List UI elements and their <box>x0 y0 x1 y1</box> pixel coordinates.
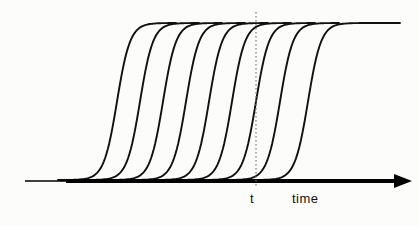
sigmoid-curve <box>81 23 199 180</box>
reference-time-label: t <box>250 192 254 205</box>
time-axis-arrowhead <box>394 174 412 188</box>
sigmoid-curves-group <box>58 23 400 180</box>
figure-canvas <box>0 0 419 226</box>
sigmoid-curve <box>127 23 245 180</box>
sigmoid-curve <box>173 23 291 180</box>
sigmoid-figure: t time <box>0 0 419 226</box>
time-axis-label: time <box>292 192 319 205</box>
sigmoid-curve <box>104 23 222 180</box>
sigmoid-curve <box>249 23 400 180</box>
sigmoid-curve <box>150 23 268 180</box>
time-axis-group <box>25 174 412 188</box>
sigmoid-curve <box>58 23 176 180</box>
sigmoid-curve <box>221 23 339 180</box>
